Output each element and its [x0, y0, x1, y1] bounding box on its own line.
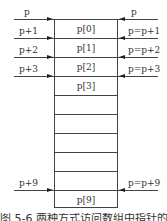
pointer-array-diagram: p[0] p[1] p[2] p[3] p[9] p p+1 p+2 p+3 p…: [0, 0, 167, 221]
array-cell-7: [55, 153, 117, 172]
arrow-left-icon: [119, 55, 125, 59]
array-cell-4: [55, 96, 117, 115]
left-pointer-label: p+3: [19, 64, 38, 74]
array-box: p[0] p[1] p[2] p[3] p[9]: [54, 19, 118, 208]
right-pointer-label: p: [131, 7, 137, 17]
array-cell-8: [55, 172, 117, 191]
array-cell-5: [55, 115, 117, 134]
left-pointer-label: p+9: [19, 178, 38, 188]
array-cell-6: [55, 134, 117, 153]
array-cell-2: p[2]: [55, 58, 117, 77]
arrow-left-icon: [119, 36, 125, 40]
right-pointer-label: p=p+1: [128, 26, 160, 36]
arrow-right-icon: [47, 188, 53, 192]
array-cell-3: p[3]: [55, 77, 117, 96]
arrow-right-icon: [47, 17, 53, 21]
arrow-right-icon: [47, 36, 53, 40]
arrow-left-icon: [119, 188, 125, 192]
left-pointer-label: p+2: [19, 45, 38, 55]
left-pointer-label: p: [24, 7, 30, 17]
arrow-left-icon: [119, 74, 125, 78]
array-cell-0: p[0]: [55, 20, 117, 39]
right-pointer-label: p=p+2: [128, 45, 160, 55]
left-pointer-label: p+1: [19, 26, 38, 36]
arrow-left-icon: [119, 17, 125, 21]
array-cell-1: p[1]: [55, 39, 117, 58]
figure-caption: 图 5-6 两种方式访问数组中指针的元素: [0, 213, 167, 221]
right-pointer-label: p=p+9: [128, 178, 160, 188]
arrow-right-icon: [47, 55, 53, 59]
array-cell-9: p[9]: [55, 191, 117, 210]
arrow-right-icon: [47, 74, 53, 78]
right-pointer-label: p=p+3: [128, 64, 160, 74]
